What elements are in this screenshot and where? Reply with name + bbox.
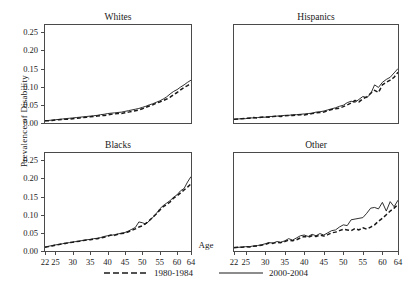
panel-blacks: Blacks: [44, 139, 192, 252]
panel-title: Blacks: [44, 139, 192, 151]
plot-area: [233, 152, 399, 252]
y-tick-mark: [41, 215, 44, 216]
y-tick-label: 0.10: [23, 211, 38, 220]
x-tick-mark: [398, 252, 399, 255]
x-tick-mark: [363, 252, 364, 255]
series-line-1980-1984: [45, 83, 191, 121]
x-tick-mark: [382, 252, 383, 255]
x-tick-mark: [125, 252, 126, 255]
y-tick-mark: [41, 69, 44, 70]
x-tick-mark: [304, 252, 305, 255]
x-tick-mark: [343, 252, 344, 255]
series-line-1980-1984: [45, 184, 191, 248]
x-tick-mark: [45, 252, 46, 255]
x-tick-mark: [90, 252, 91, 255]
panel-hispanics: Hispanics: [233, 11, 399, 124]
y-tick-label: 0.15: [23, 193, 38, 202]
legend-item-1980-1984: 1980-1984: [104, 268, 193, 278]
legend-label: 1980-1984: [154, 268, 193, 278]
y-tick-label: 0.05: [23, 101, 38, 110]
x-tick-mark: [246, 252, 247, 255]
y-tick-mark: [41, 105, 44, 106]
chart-figure: Prevalence of Disability Whites0.000.050…: [0, 0, 412, 288]
y-tick-mark: [41, 87, 44, 88]
y-tick-label: 0.00: [23, 119, 38, 128]
panel-whites: Whites: [44, 11, 192, 124]
y-tick-mark: [41, 50, 44, 51]
x-tick-mark: [177, 252, 178, 255]
chart-legend: 1980-1984 2000-2004: [0, 262, 412, 284]
panel-title: Other: [233, 139, 399, 151]
y-tick-mark: [41, 123, 44, 124]
x-tick-mark: [285, 252, 286, 255]
legend-swatch-dashed: [104, 268, 148, 278]
x-tick-mark: [142, 252, 143, 255]
x-tick-mark: [234, 252, 235, 255]
y-tick-mark: [41, 178, 44, 179]
y-tick-mark: [41, 32, 44, 33]
y-tick-label: 0.15: [23, 65, 38, 74]
y-tick-label: 0.25: [23, 28, 38, 37]
x-tick-mark: [191, 252, 192, 255]
y-tick-label: 0.05: [23, 229, 38, 238]
series-line-2000-2004: [234, 69, 398, 120]
y-tick-mark: [41, 160, 44, 161]
x-tick-mark: [265, 252, 266, 255]
x-tick-mark: [55, 252, 56, 255]
y-tick-mark: [41, 197, 44, 198]
series-canvas: [234, 25, 398, 123]
legend-label: 2000-2004: [269, 268, 308, 278]
y-tick-mark: [41, 233, 44, 234]
plot-area: [233, 24, 399, 124]
panel-other: Other: [233, 139, 399, 252]
y-tick-label: 0.20: [23, 46, 38, 55]
series-line-2000-2004: [45, 80, 191, 121]
plot-area: [44, 24, 192, 124]
panel-grid: Whites0.000.050.100.150.200.25HispanicsB…: [0, 0, 412, 255]
x-tick-mark: [160, 252, 161, 255]
series-canvas: [45, 153, 191, 251]
series-canvas: [45, 25, 191, 123]
x-axis-title: Age: [0, 240, 412, 250]
y-tick-mark: [41, 251, 44, 252]
series-canvas: [234, 153, 398, 251]
panel-title: Hispanics: [233, 11, 399, 23]
x-tick-mark: [73, 252, 74, 255]
plot-area: [44, 152, 192, 252]
y-tick-label: 0.20: [23, 174, 38, 183]
y-tick-label: 0.25: [23, 156, 38, 165]
panel-title: Whites: [44, 11, 192, 23]
legend-item-2000-2004: 2000-2004: [219, 268, 308, 278]
y-tick-label: 0.10: [23, 83, 38, 92]
legend-swatch-solid: [219, 268, 263, 278]
x-tick-mark: [324, 252, 325, 255]
x-tick-mark: [108, 252, 109, 255]
series-line-2000-2004: [45, 177, 191, 247]
